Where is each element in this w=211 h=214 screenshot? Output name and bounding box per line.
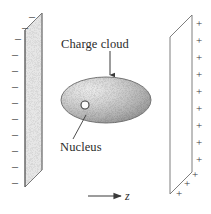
plus-sign-9: + (192, 169, 198, 180)
plus-sign-0: + (196, 18, 202, 29)
minus-sign-9: – (12, 144, 18, 156)
minus-sign-4: – (12, 64, 18, 76)
charge-cloud-ellipse (61, 77, 151, 123)
charge-cloud-label: Charge cloud (61, 38, 129, 51)
plus-sign-8: + (196, 154, 202, 165)
minus-sign-8: – (12, 128, 18, 140)
charge-cloud-shape (61, 77, 151, 123)
minus-sign-0: – (29, 10, 35, 22)
nucleus-circle (81, 101, 89, 109)
plus-sign-4: + (196, 86, 202, 97)
nucleus-label: Nucleus (60, 141, 102, 154)
diagram-canvas (0, 0, 211, 214)
plus-sign-3: + (196, 69, 202, 80)
plus-sign-7: + (196, 137, 202, 148)
minus-sign-5: – (12, 80, 18, 92)
positive-plate (170, 15, 192, 194)
plus-sign-5: + (196, 103, 202, 114)
minus-sign-11: – (12, 176, 18, 188)
minus-sign-1: – (22, 21, 28, 33)
plus-sign-1: + (196, 35, 202, 46)
plus-sign-11: + (176, 188, 182, 199)
plus-sign-6: + (196, 120, 202, 131)
plus-sign-2: + (196, 52, 202, 63)
negative-plate (25, 13, 42, 187)
minus-sign-3: – (12, 48, 18, 60)
minus-sign-10: – (12, 160, 18, 172)
minus-sign-2: – (15, 32, 21, 44)
negative-plate-surface (25, 13, 42, 187)
z-axis-label: z (125, 190, 130, 202)
minus-sign-6: – (12, 96, 18, 108)
physics-diagram-polarized-atom: Charge cloud Nucleus z –––––––––––– ++++… (0, 0, 211, 214)
nucleus-shape (81, 101, 89, 109)
plus-sign-10: + (184, 178, 190, 189)
minus-sign-7: – (12, 112, 18, 124)
positive-plate-surface (170, 15, 192, 194)
